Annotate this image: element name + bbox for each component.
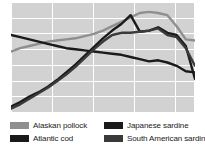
legend-swatch: [10, 135, 29, 142]
legend-item[interactable]: Atlantic cod: [10, 133, 102, 144]
legend-item-label: Atlantic cod: [33, 134, 73, 143]
legend-item[interactable]: South American sardine: [104, 133, 205, 144]
legend-item-label: South American sardine: [127, 134, 205, 143]
legend-item[interactable]: Alaskan pollock: [10, 120, 102, 131]
plot-canvas: [11, 2, 195, 112]
series-lines: [11, 12, 195, 109]
legend-item-label: Alaskan pollock: [33, 121, 87, 130]
plot-area: [11, 2, 195, 112]
gridlines: [11, 2, 195, 112]
legend-swatch: [104, 135, 123, 142]
legend-swatch: [104, 122, 123, 129]
legend-item[interactable]: Japanese sardine: [104, 120, 205, 131]
legend-item-label: Japanese sardine: [127, 121, 189, 130]
chart-legend: Alaskan pollock Atlantic cod Japanese sa…: [0, 120, 205, 150]
legend-column-right: Japanese sardine South American sardine: [104, 120, 205, 146]
legend-column-left: Alaskan pollock Atlantic cod: [10, 120, 102, 146]
chart-figure: Alaskan pollock Atlantic cod Japanese sa…: [0, 0, 205, 150]
legend-swatch: [10, 122, 29, 129]
